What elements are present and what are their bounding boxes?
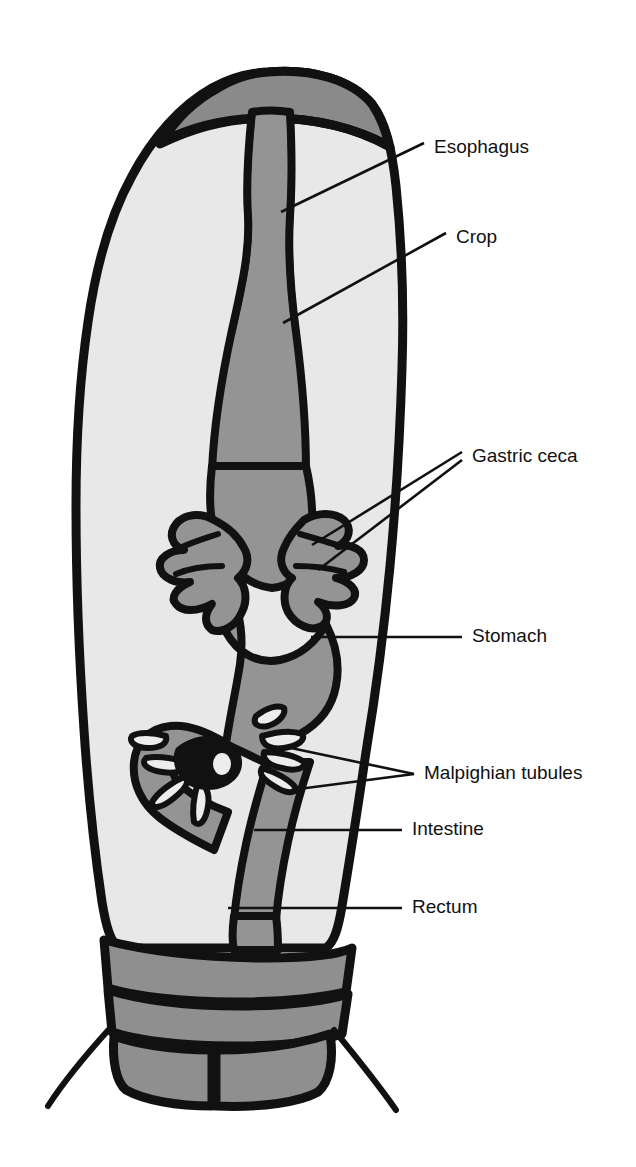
label-esophagus-text: Esophagus	[434, 136, 529, 157]
cercus-right	[334, 1030, 396, 1110]
tubule-junction-highlight	[213, 753, 231, 775]
figure-root: Esophagus Crop Gastric ceca Stomach Malp…	[0, 0, 636, 1167]
label-malpighian-tubules-text: Malpighian tubules	[424, 762, 582, 783]
terminal-lobe-left	[114, 1036, 213, 1106]
terminal-segments-group	[48, 940, 396, 1110]
cercus-left	[48, 1026, 112, 1106]
insect-digestive-system-diagram: Esophagus Crop Gastric ceca Stomach Malp…	[0, 0, 636, 1167]
label-rectum-text: Rectum	[412, 896, 477, 917]
malpighian-tubule-l4	[131, 733, 166, 748]
label-gastric-ceca-text: Gastric ceca	[472, 445, 578, 466]
malpighian-tubule-r1	[262, 732, 303, 749]
label-stomach-text: Stomach	[472, 625, 547, 646]
label-intestine-text: Intestine	[412, 818, 484, 839]
label-crop-text: Crop	[456, 226, 497, 247]
rectum	[233, 916, 279, 950]
